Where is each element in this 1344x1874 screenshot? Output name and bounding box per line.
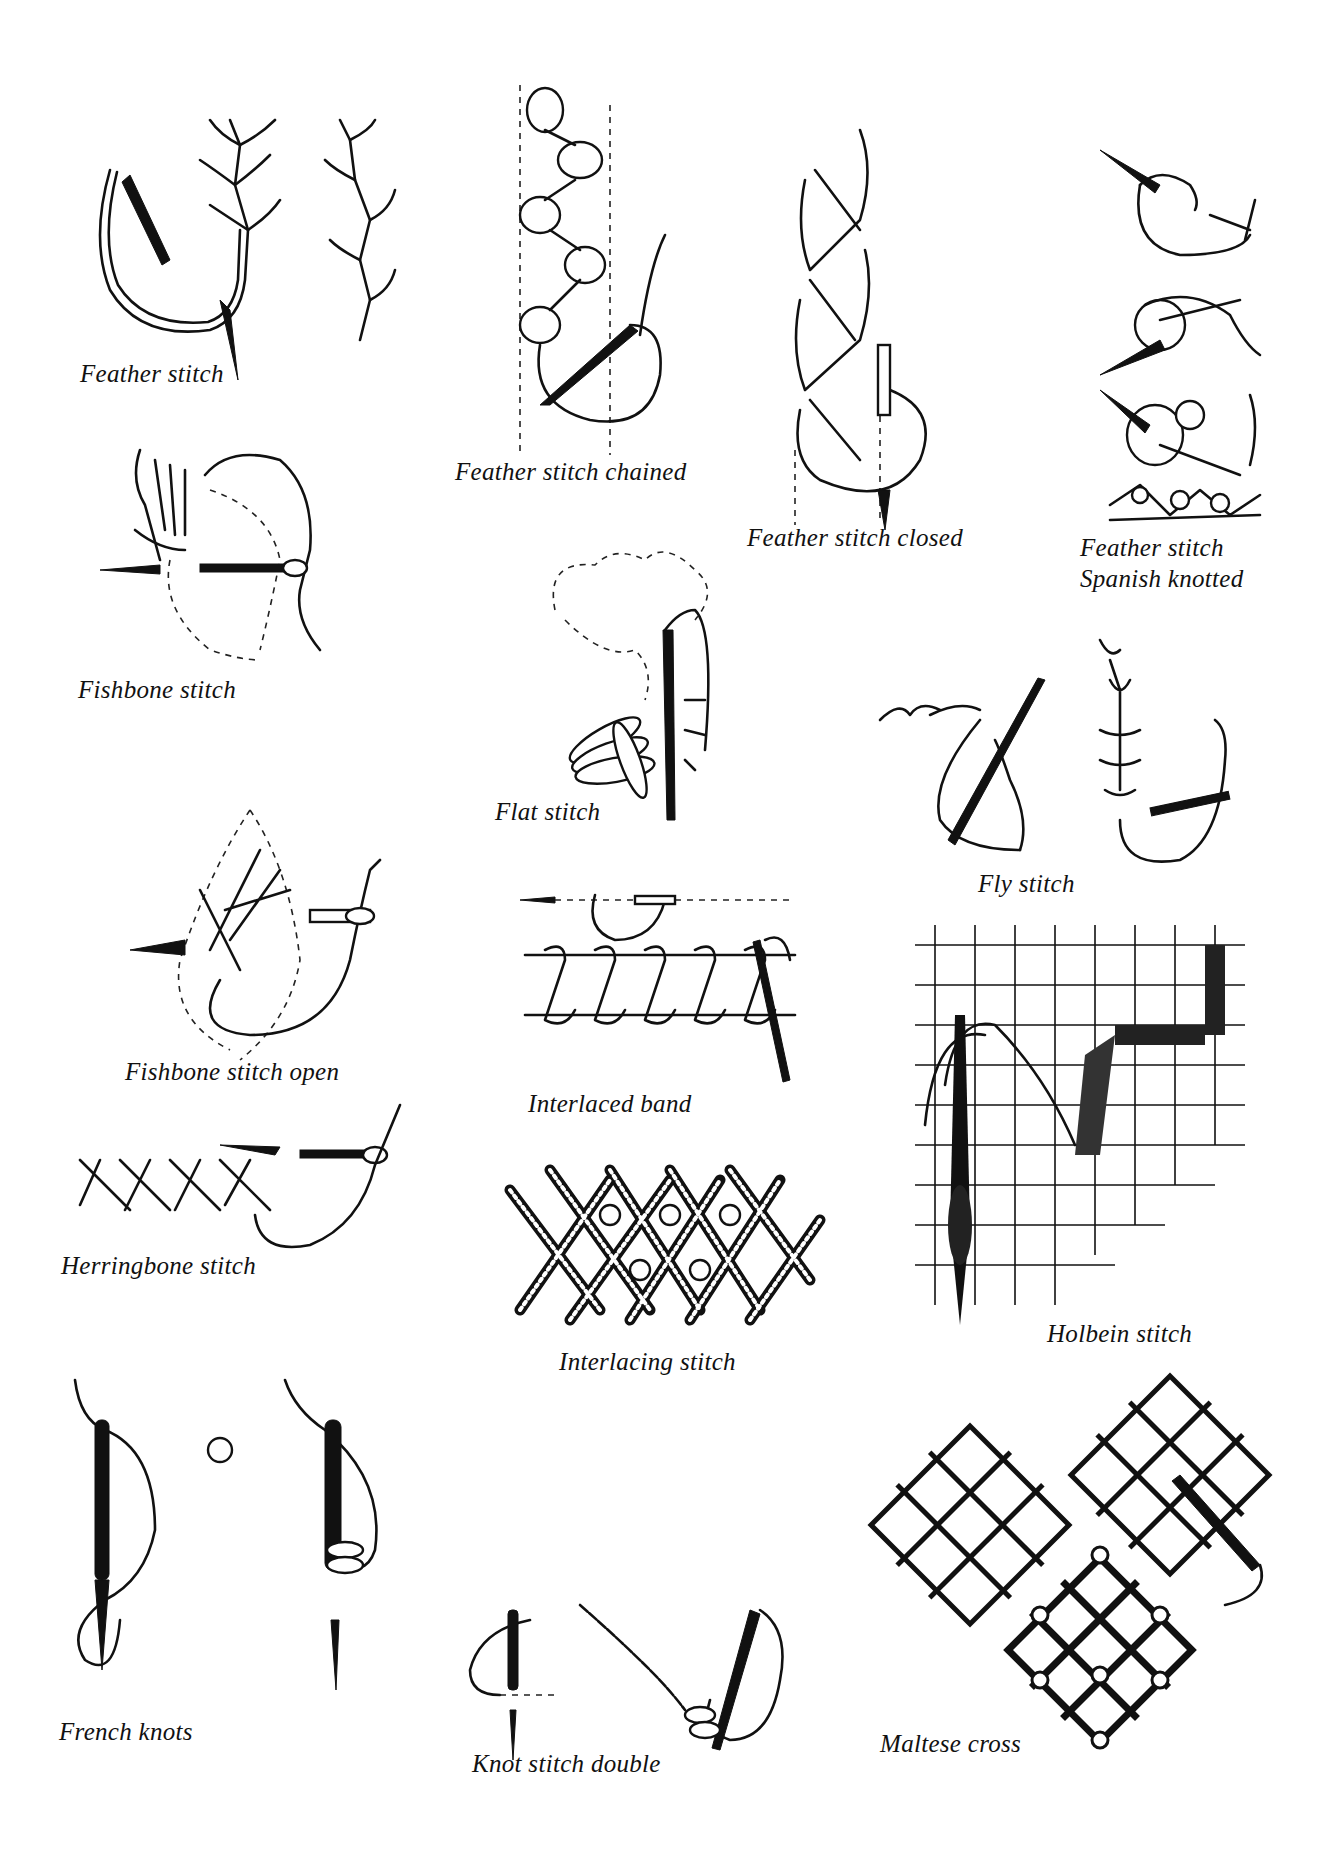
- label-knot-stitch-double: Knot stitch double: [472, 1750, 661, 1779]
- fishbone-stitch-drawing: [100, 450, 340, 680]
- fishbone-stitch-open-illustration: [130, 810, 420, 1070]
- label-interlacing-stitch: Interlacing stitch: [559, 1348, 736, 1377]
- herringbone-stitch-illustration: [70, 1145, 410, 1255]
- label-maltese-cross: Maltese cross: [880, 1730, 1021, 1759]
- feather-stitch-drawing: [70, 100, 400, 360]
- label-interlaced-band: Interlaced band: [528, 1090, 691, 1119]
- label-fishbone-stitch-open: Fishbone stitch open: [125, 1058, 339, 1087]
- fly-stitch-illustration: [870, 640, 1270, 870]
- feather-stitch-chained-drawing: [500, 85, 720, 455]
- flat-stitch-drawing: [545, 550, 775, 820]
- label-feather-stitch-spanish-knotted-1: Feather stitch: [1080, 534, 1224, 563]
- interlacing-stitch-drawing: [500, 1160, 830, 1340]
- label-feather-stitch-chained: Feather stitch chained: [455, 458, 687, 487]
- label-fishbone-stitch: Fishbone stitch: [78, 676, 236, 705]
- label-feather-stitch: Feather stitch: [80, 360, 224, 389]
- flat-stitch-illustration: [545, 550, 775, 820]
- feather-stitch-illustration: [70, 100, 400, 360]
- feather-stitch-closed-drawing: [790, 130, 940, 530]
- label-feather-stitch-closed: Feather stitch closed: [747, 524, 963, 553]
- feather-stitch-chained-illustration: [500, 85, 720, 455]
- knot-stitch-double-drawing: [460, 1600, 830, 1760]
- feather-stitch-spanish-knotted-drawing: [1100, 145, 1270, 535]
- label-holbein-stitch: Holbein stitch: [1047, 1320, 1192, 1349]
- french-knots-illustration: [55, 1380, 415, 1710]
- label-feather-stitch-spanish-knotted-2: Spanish knotted: [1080, 565, 1244, 594]
- maltese-cross-drawing: [880, 1415, 1320, 1745]
- interlaced-band-illustration: [515, 870, 815, 1090]
- herringbone-stitch-drawing: [70, 1145, 410, 1255]
- maltese-cross-illustration: [880, 1415, 1320, 1745]
- knot-stitch-double-illustration: [460, 1600, 830, 1760]
- interlaced-band-drawing: [515, 870, 815, 1090]
- french-knots-drawing: [55, 1380, 415, 1710]
- fly-stitch-drawing: [870, 640, 1270, 870]
- label-flat-stitch: Flat stitch: [495, 798, 600, 827]
- label-fly-stitch: Fly stitch: [978, 870, 1075, 899]
- feather-stitch-closed-illustration: [790, 130, 940, 530]
- fishbone-stitch-illustration: [100, 450, 340, 680]
- holbein-stitch-illustration: [915, 925, 1245, 1325]
- holbein-stitch-drawing: [915, 925, 1245, 1325]
- label-herringbone-stitch: Herringbone stitch: [61, 1252, 256, 1281]
- fishbone-stitch-open-drawing: [130, 810, 420, 1070]
- label-french-knots: French knots: [59, 1718, 193, 1747]
- interlacing-stitch-illustration: [500, 1160, 830, 1340]
- feather-stitch-spanish-knotted-illustration: [1100, 145, 1270, 535]
